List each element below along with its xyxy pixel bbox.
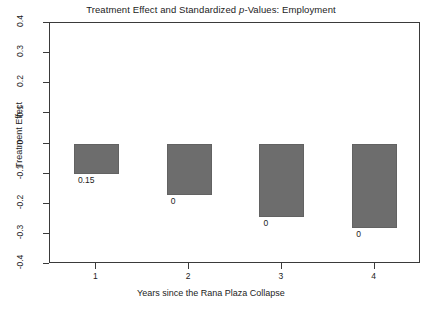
chart-title: Treatment Effect and Standardized p-Valu… <box>0 4 422 15</box>
x-tick-mark <box>374 263 375 269</box>
bar[interactable] <box>74 144 119 174</box>
plot-area <box>49 22 420 263</box>
chart-figure: Treatment Effect and Standardized p-Valu… <box>0 0 422 312</box>
bar-value-label: 0 <box>263 218 268 228</box>
y-tick-label: -0.4 <box>15 242 25 282</box>
chart-title-prefix: Treatment Effect and Standardized <box>86 4 239 15</box>
cropped-caption-sliver <box>0 306 422 312</box>
x-tick-mark <box>281 263 282 269</box>
bar-value-label: 0 <box>171 196 176 206</box>
y-tick-mark <box>43 263 49 264</box>
bar-value-label: 0 <box>356 229 361 239</box>
bar[interactable] <box>259 144 304 218</box>
bar-value-label: 0.15 <box>78 175 95 185</box>
x-axis-title: Years since the Rana Plaza Collapse <box>0 288 422 298</box>
x-tick-mark <box>188 263 189 269</box>
x-tick-label: 4 <box>359 271 389 281</box>
x-tick-mark <box>95 263 96 269</box>
bar[interactable] <box>352 144 397 228</box>
x-tick-label: 2 <box>173 271 203 281</box>
chart-title-suffix: -Values: Employment <box>244 4 335 15</box>
bar[interactable] <box>167 144 212 195</box>
x-tick-label: 3 <box>266 271 296 281</box>
x-tick-label: 1 <box>80 271 110 281</box>
